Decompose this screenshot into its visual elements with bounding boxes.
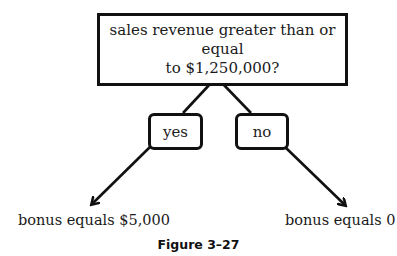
no-label: no (253, 123, 272, 141)
yes-outcome-label: bonus equals $5,000 (18, 212, 170, 228)
no-outcome-label: bonus equals 0 (285, 212, 396, 228)
arrow-yes-outcome (92, 147, 150, 204)
connector-question-to-yes (183, 83, 211, 113)
figure-caption: Figure 3–27 (0, 237, 397, 252)
question-line-2: to $1,250,000? (166, 59, 280, 78)
yes-label: yes (163, 123, 188, 141)
no-branch-box: no (235, 113, 289, 150)
decision-diagram: sales revenue greater than or equal to $… (0, 0, 397, 256)
question-line-1: sales revenue greater than or equal (100, 21, 345, 59)
connector-question-to-no (222, 83, 251, 113)
yes-branch-box: yes (148, 113, 203, 150)
question-box: sales revenue greater than or equal to $… (97, 13, 348, 86)
arrow-no-outcome (285, 147, 345, 205)
